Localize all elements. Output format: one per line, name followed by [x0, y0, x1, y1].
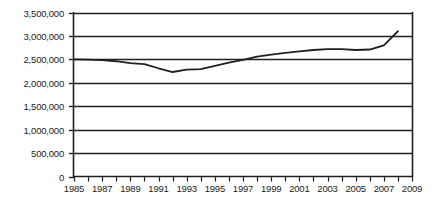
x-axis-tick-label: 1987: [92, 183, 112, 194]
x-axis-tick-label: 1991: [148, 183, 168, 194]
gridline-group: [73, 14, 413, 154]
data-series-line: [74, 31, 398, 72]
x-axis-tick-label: 1997: [233, 183, 253, 194]
x-axis-tick-label: 1989: [120, 183, 140, 194]
x-axis-tick-label: 2001: [289, 183, 309, 194]
x-axis-tick-label: 2007: [374, 183, 394, 194]
x-axis-tick-label: 1985: [64, 183, 84, 194]
x-axis-tick-label: 2009: [402, 183, 422, 194]
x-axis-tick-label: 1999: [261, 183, 281, 194]
line-chart: 0500,0001,000,0001,500,0002,000,0002,500…: [0, 0, 441, 212]
chart-plot-area: [0, 0, 441, 212]
x-axis-tick-label: 1995: [205, 183, 225, 194]
x-axis-tick-label: 2003: [317, 183, 337, 194]
x-axis-tick-label: 2005: [345, 183, 365, 194]
x-axis-tick-label: 1993: [176, 183, 196, 194]
